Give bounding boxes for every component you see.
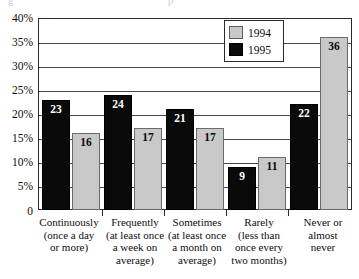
y-tick-label: 25% [12, 85, 33, 97]
scan-artifact: g p [0, 0, 359, 7]
legend-label: 1994 [248, 27, 271, 39]
bar-chart: g p 40% 35% 30% 25% 20% 15% 10% 5% 0 23 … [0, 0, 359, 279]
y-tick-label: 10% [12, 157, 33, 169]
legend-label: 1995 [248, 44, 271, 56]
category-line: never [286, 241, 359, 254]
legend-item-1994[interactable]: 1994 [229, 24, 283, 41]
y-tick-label: 20% [12, 109, 33, 121]
category-line: Continuously [32, 216, 106, 229]
bar-1994[interactable]: 16 [72, 133, 100, 210]
category-line: (once a day [32, 229, 106, 242]
bar-group: 23 16 [42, 18, 100, 210]
legend-swatch-icon [229, 26, 243, 39]
category-label-continuously: Continuously (once a day or more) [32, 216, 106, 254]
y-axis: 40% 35% 30% 25% 20% 15% 10% 5% 0 [0, 0, 38, 215]
bar-value: 16 [73, 136, 99, 148]
bar-1994[interactable]: 11 [258, 157, 286, 210]
y-tick-label: 40% [12, 13, 33, 25]
category-line: (less than [222, 229, 296, 242]
y-tick-label: 30% [12, 61, 33, 73]
bar-1994[interactable]: 17 [134, 128, 162, 210]
category-line: Rarely [222, 216, 296, 229]
bar-1995[interactable]: 24 [104, 95, 132, 210]
x-axis-category-labels: Continuously (once a day or more) Freque… [38, 216, 352, 279]
y-tick-label: 5% [18, 181, 33, 193]
bar-value: 23 [43, 103, 69, 115]
bar-1995[interactable]: 9 [228, 167, 256, 210]
category-line: two months) [222, 254, 296, 267]
bar-1995[interactable]: 23 [42, 100, 70, 210]
bar-group: 22 36 [290, 18, 348, 210]
category-line: or more) [32, 241, 106, 254]
category-label-never: Never or almost never [286, 216, 359, 254]
bar-1995[interactable]: 21 [166, 109, 194, 210]
y-tick-label: 35% [12, 37, 33, 49]
bar-value: 11 [259, 160, 285, 172]
bar-group: 21 17 [166, 18, 224, 210]
bar-1994[interactable]: 36 [320, 37, 348, 210]
legend-item-1995[interactable]: 1995 [229, 41, 283, 58]
bar-value: 21 [167, 112, 193, 124]
bar-value: 24 [105, 98, 131, 110]
legend-swatch-icon [229, 43, 243, 56]
bar-group: 24 17 [104, 18, 162, 210]
bar-value: 9 [229, 170, 255, 182]
category-line: once every [222, 241, 296, 254]
bar-value: 22 [291, 107, 317, 119]
bar-1994[interactable]: 17 [196, 128, 224, 210]
bar-1995[interactable]: 22 [290, 104, 318, 210]
legend: 1994 1995 [224, 20, 284, 62]
category-line: almost [286, 229, 359, 242]
bar-value: 17 [197, 131, 223, 143]
category-line: Never or [286, 216, 359, 229]
bar-value: 36 [321, 40, 347, 52]
category-label-rarely: Rarely (less than once every two months) [222, 216, 296, 266]
y-tick-label: 15% [12, 133, 33, 145]
bar-value: 17 [135, 131, 161, 143]
bars-layer: 23 16 24 17 21 17 9 [38, 18, 352, 210]
